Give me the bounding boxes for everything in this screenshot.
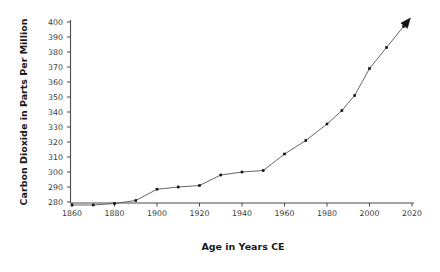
data-point-marker — [219, 174, 222, 177]
data-point-marker — [262, 169, 265, 172]
x-tick-label: 1880 — [105, 209, 125, 218]
data-point-marker — [134, 199, 137, 202]
y-axis-title: Carbon Dioxide in Parts Per Million — [18, 18, 29, 205]
x-tick-label: 1940 — [232, 209, 252, 218]
x-tick-label: 1900 — [147, 209, 167, 218]
data-point-marker — [341, 109, 344, 112]
y-tick-label: 350 — [48, 93, 63, 102]
x-tick-label: 2020 — [402, 209, 422, 218]
chart-background — [0, 0, 440, 272]
co2-line-chart: 400 390 380 370 360 350 340 330 320 310 … — [0, 0, 440, 272]
data-point-marker — [156, 188, 159, 191]
data-point-marker — [71, 204, 74, 207]
data-point-marker — [283, 153, 286, 156]
data-point-marker — [368, 67, 371, 70]
y-tick-label: 310 — [48, 153, 63, 162]
data-point-marker — [92, 204, 95, 207]
x-tick-label: 1920 — [190, 209, 210, 218]
y-tick-label: 340 — [48, 108, 63, 117]
y-tick-label: 400 — [48, 18, 63, 27]
x-tick-label: 1860 — [62, 209, 82, 218]
data-point-marker — [326, 123, 329, 126]
y-tick-label: 290 — [48, 183, 63, 192]
y-tick-label: 330 — [48, 123, 63, 132]
data-point-marker — [113, 202, 116, 205]
y-tick-label: 280 — [48, 198, 63, 207]
y-tick-label: 380 — [48, 48, 63, 57]
x-tick-label: 1980 — [317, 209, 337, 218]
data-point-marker — [198, 184, 201, 187]
data-point-marker — [353, 94, 356, 97]
y-tick-label: 370 — [48, 63, 63, 72]
data-point-marker — [304, 139, 307, 142]
x-axis-title: Age in Years CE — [201, 241, 284, 252]
data-point-marker — [241, 171, 244, 174]
y-tick-label: 390 — [48, 33, 63, 42]
y-tick-label: 300 — [48, 168, 63, 177]
y-tick-label: 360 — [48, 78, 63, 87]
x-axis-tick-labels: 1860 1880 1900 1920 1940 1960 1980 2000 … — [62, 209, 422, 218]
x-tick-label: 1960 — [275, 209, 295, 218]
y-tick-label: 320 — [48, 138, 63, 147]
data-point-marker — [385, 46, 388, 49]
x-tick-label: 2000 — [360, 209, 380, 218]
data-point-marker — [177, 186, 180, 189]
